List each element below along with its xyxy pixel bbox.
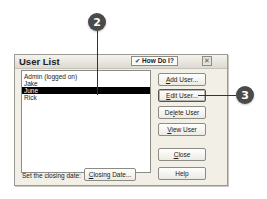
closing-date-button[interactable]: Closing Date...	[84, 168, 136, 181]
close-icon[interactable]: ✕	[202, 56, 212, 66]
dialog-titlebar: User List ✔ How Do I? ✕	[15, 55, 227, 69]
how-do-i-label: How Do I?	[142, 57, 174, 65]
button-label: iew User	[171, 126, 196, 133]
callout-2-leader-line	[97, 31, 98, 95]
button-label: lose	[178, 151, 190, 158]
button-label: dd User...	[170, 76, 198, 83]
button-label: losing Date...	[93, 171, 131, 178]
close-button[interactable]: Close	[158, 148, 206, 161]
button-label: ete User	[175, 109, 200, 116]
how-do-i-button[interactable]: ✔ How Do I?	[131, 56, 178, 66]
button-label: dit User...	[170, 92, 197, 99]
list-item[interactable]: Admin (logged on)	[22, 73, 150, 80]
view-user-button[interactable]: View User	[158, 123, 206, 136]
delete-user-button[interactable]: Delete User	[158, 106, 206, 119]
user-listbox[interactable]: Admin (logged on) Jake June Rick	[21, 70, 151, 173]
user-list-dialog: User List ✔ How Do I? ✕ Admin (logged on…	[14, 54, 228, 186]
list-item[interactable]: Rick	[22, 94, 150, 101]
dialog-title: User List	[19, 55, 60, 68]
callout-3-leader-line	[198, 95, 236, 96]
callout-3: 3	[236, 86, 254, 104]
chevron-down-icon: ✔	[135, 57, 140, 65]
callout-2: 2	[88, 13, 106, 31]
list-item-selected[interactable]: June	[22, 87, 150, 94]
help-button[interactable]: Help	[158, 167, 206, 180]
button-label: Help	[175, 170, 188, 177]
button-label: De	[165, 109, 173, 116]
add-user-button[interactable]: Add User...	[158, 73, 206, 86]
list-item[interactable]: Jake	[22, 80, 150, 87]
closing-date-label: Set the closing date:	[22, 170, 81, 181]
